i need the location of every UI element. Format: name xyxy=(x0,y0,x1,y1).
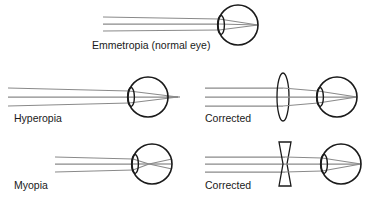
post-lens-ray-bottom xyxy=(285,171,322,172)
panel-myopia-corrected: Corrected xyxy=(205,142,361,191)
post-lens-ray-top xyxy=(285,157,322,158)
refracted-ray-bottom xyxy=(133,164,149,170)
label-hyperopia: Hyperopia xyxy=(14,112,62,124)
panel-myopia: Myopia xyxy=(14,144,172,191)
diagram-canvas: Emmetropia (normal eye) Hyperopia xyxy=(0,0,387,199)
ray-bottom xyxy=(55,170,133,172)
emmetropia-incoming-rays xyxy=(103,17,219,31)
corrected-incoming-rays xyxy=(205,157,285,172)
label-hyperopia-corrected: Corrected xyxy=(205,112,251,124)
ray-top xyxy=(8,88,129,91)
panel-emmetropia: Emmetropia (normal eye) xyxy=(92,5,258,51)
diverging-ray-bottom xyxy=(149,164,172,169)
myopia-incoming-rays xyxy=(55,157,133,172)
label-myopia-corrected: Corrected xyxy=(205,179,251,191)
refracted-ray-bottom xyxy=(129,97,178,103)
panel-hyperopia-corrected: Corrected xyxy=(205,73,357,124)
panel-hyperopia: Hyperopia xyxy=(8,77,180,124)
diverging-ray-top xyxy=(149,159,172,164)
refracted-ray-top xyxy=(129,91,178,97)
ray-top xyxy=(55,157,133,159)
refracted-ray-top xyxy=(133,159,149,164)
label-emmetropia: Emmetropia (normal eye) xyxy=(92,39,210,51)
myopia-diverging-rays xyxy=(149,159,172,169)
corrected-incoming-rays xyxy=(205,88,283,106)
ray-top xyxy=(103,17,219,19)
label-myopia: Myopia xyxy=(14,179,48,191)
corrected-post-lens-rays xyxy=(285,157,322,172)
hyperopia-incoming-rays xyxy=(8,88,129,106)
refractive-errors-diagram: Emmetropia (normal eye) Hyperopia xyxy=(0,0,387,199)
myopia-refracted-rays xyxy=(133,159,149,170)
ray-bottom xyxy=(103,30,219,31)
ray-bottom xyxy=(8,103,129,106)
